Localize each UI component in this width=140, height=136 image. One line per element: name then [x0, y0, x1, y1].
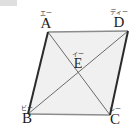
edge-AD [48, 31, 128, 32]
parallelogram-drawing [0, 0, 140, 136]
geometry-figure: エー A ディー D イー E ビー B シー C [0, 0, 140, 136]
edge-CB [28, 114, 110, 115]
